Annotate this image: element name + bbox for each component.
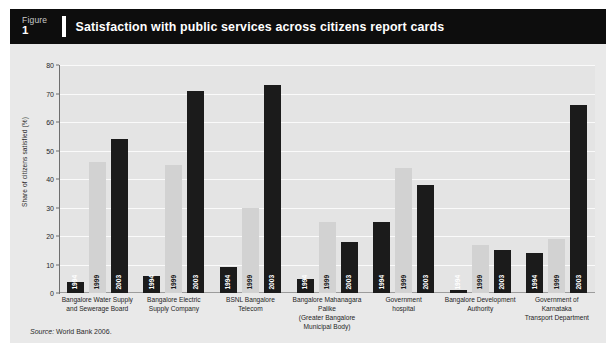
bar[interactable]: 2003	[494, 250, 511, 293]
header-divider	[62, 16, 66, 37]
bar-group: 199419992003	[289, 65, 366, 293]
bar[interactable]: 1994	[67, 282, 84, 293]
category-label: BSNL BangaloreTelecom	[212, 296, 289, 332]
source-prefix: Source:	[30, 328, 54, 335]
y-axis-tick-label: 50	[46, 147, 54, 154]
bar[interactable]: 1999	[165, 165, 182, 293]
bar[interactable]: 1999	[89, 162, 106, 293]
bar-year-label: 2003	[422, 275, 429, 290]
bar-year-label: 1994	[225, 275, 232, 290]
category-label-line: Bangalore Water Supply	[61, 296, 134, 305]
category-label: Governmenthospital	[365, 296, 442, 332]
bar-year-label: 2003	[499, 275, 506, 290]
figure-title: Satisfaction with public services across…	[76, 20, 445, 34]
bar[interactable]: 2003	[187, 91, 204, 293]
y-axis-tick-label: 70	[46, 90, 54, 97]
category-label: Bangalore Mahanagara Palike(Greater Bang…	[289, 296, 366, 332]
bar[interactable]: 1994	[373, 222, 390, 293]
bar-year-label: 1999	[477, 275, 484, 290]
bar-year-label: 2003	[346, 275, 353, 290]
figure-number: 1	[22, 25, 62, 37]
bar[interactable]: 2003	[264, 85, 281, 293]
bar[interactable]: 1994	[297, 279, 314, 293]
bar[interactable]: 1999	[319, 222, 336, 293]
category-label-line: and Sewerage Board	[61, 305, 134, 314]
bar-year-label: 1994	[378, 275, 385, 290]
y-axis-title-text: Share of citizens satisfied (%)	[21, 72, 28, 252]
bar[interactable]: 2003	[570, 105, 587, 293]
chart-body: Share of citizens satisfied (%) 01020304…	[10, 44, 606, 343]
figure-label-word: Figure	[22, 16, 62, 25]
y-axis-tick-label: 20	[46, 233, 54, 240]
y-axis-tick-label: 30	[46, 204, 54, 211]
bar[interactable]: 1994	[526, 253, 543, 293]
category-label-line: Transport Department	[520, 314, 593, 323]
category-label: Bangalore DevelopmentAuthority	[442, 296, 519, 332]
category-label-line: Government	[367, 296, 440, 305]
bar-year-label: 2003	[575, 275, 582, 290]
y-axis-title: Share of citizens satisfied (%)	[21, 0, 28, 72]
category-label-line: Bangalore Development	[444, 296, 517, 305]
y-axis-tick-label: 10	[46, 261, 54, 268]
bar[interactable]: 1994	[220, 267, 237, 293]
y-axis-tick-label: 60	[46, 119, 54, 126]
bar[interactable]: 1994	[143, 276, 160, 293]
bar-year-label: 2003	[116, 275, 123, 290]
category-label-line: BSNL Bangalore	[214, 296, 287, 305]
category-label: Government of KarnatakaTransport Departm…	[518, 296, 595, 332]
bar-year-label: 1994	[455, 275, 462, 290]
bar-year-label: 1999	[171, 275, 178, 290]
figure-panel: Figure 1 Satisfaction with public servic…	[10, 9, 606, 343]
category-label-line: Bangalore Mahanagara Palike	[291, 296, 364, 314]
category-label-line: Bangalore Electric	[138, 296, 211, 305]
bar-year-label: 1999	[94, 275, 101, 290]
figure-root: Figure 1 Satisfaction with public servic…	[0, 0, 616, 353]
bar[interactable]: 2003	[417, 185, 434, 293]
bar[interactable]: 1999	[548, 239, 565, 293]
bar-year-label: 2003	[269, 275, 276, 290]
bar[interactable]: 2003	[341, 242, 358, 293]
bar-group: 199419992003	[518, 65, 595, 293]
bar-year-label: 1994	[149, 275, 156, 290]
bar-group: 199419992003	[136, 65, 213, 293]
bar-group: 199419992003	[59, 65, 136, 293]
bar-group: 199419992003	[442, 65, 519, 293]
bar-group: 199419992003	[365, 65, 442, 293]
source-text: World Bank 2006.	[56, 328, 112, 335]
y-axis-tick-label: 40	[46, 176, 54, 183]
bar-group: 199419992003	[212, 65, 289, 293]
bar-year-label: 1994	[531, 275, 538, 290]
category-labels: Bangalore Water Supplyand Sewerage Board…	[59, 296, 595, 332]
bar-year-label: 1999	[553, 275, 560, 290]
figure-number-block: Figure 1	[10, 16, 62, 37]
bar[interactable]: 1994	[450, 290, 467, 293]
y-axis-tick-label: 0	[50, 290, 54, 297]
bar-year-label: 1999	[400, 275, 407, 290]
category-label-line: hospital	[367, 305, 440, 314]
bar-groups: 1994199920031994199920031994199920031994…	[59, 65, 595, 293]
category-label: Bangalore ElectricSupply Company	[136, 296, 213, 332]
source-note: Source: World Bank 2006.	[30, 328, 112, 335]
category-label-line: Telecom	[214, 305, 287, 314]
bar-year-label: 1994	[302, 275, 309, 290]
bar[interactable]: 1999	[395, 168, 412, 293]
bar[interactable]: 1999	[242, 208, 259, 294]
bar[interactable]: 1999	[472, 245, 489, 293]
bar[interactable]: 2003	[111, 139, 128, 293]
bar-year-label: 1994	[72, 275, 79, 290]
bar-year-label: 1999	[247, 275, 254, 290]
category-label: Bangalore Water Supplyand Sewerage Board	[59, 296, 136, 332]
y-axis-tick-label: 80	[46, 62, 54, 69]
category-label-line: Government of Karnataka	[520, 296, 593, 314]
bar-year-label: 2003	[193, 275, 200, 290]
category-label-line: Authority	[444, 305, 517, 314]
bar-year-label: 1999	[324, 275, 331, 290]
category-label-line: (Greater Bangalore Municipal Body)	[291, 314, 364, 332]
figure-header: Figure 1 Satisfaction with public servic…	[10, 9, 606, 44]
category-label-line: Supply Company	[138, 305, 211, 314]
